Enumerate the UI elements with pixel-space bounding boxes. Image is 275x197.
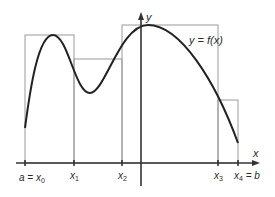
y-axis-arrow-icon (138, 12, 144, 20)
label-x2: x2 (117, 170, 127, 182)
rectangle-4 (218, 100, 238, 163)
x-axis-arrow-icon (252, 160, 260, 166)
x-axis (16, 160, 260, 166)
rectangle-2 (74, 59, 122, 163)
label-x1: x1 (69, 170, 79, 182)
y-axis (138, 12, 144, 186)
label-x0: a = x0 (19, 172, 45, 184)
label-x4: x4 = b (233, 170, 260, 182)
label-x3: x3 (213, 170, 223, 182)
x-axis-label: x (252, 147, 259, 159)
riemann-sum-diagram: y x y = f(x) a = x0 x1 x2 x3 x4 = b (0, 0, 275, 197)
y-axis-label: y (145, 11, 153, 23)
curve-label: y = f(x) (188, 34, 223, 46)
